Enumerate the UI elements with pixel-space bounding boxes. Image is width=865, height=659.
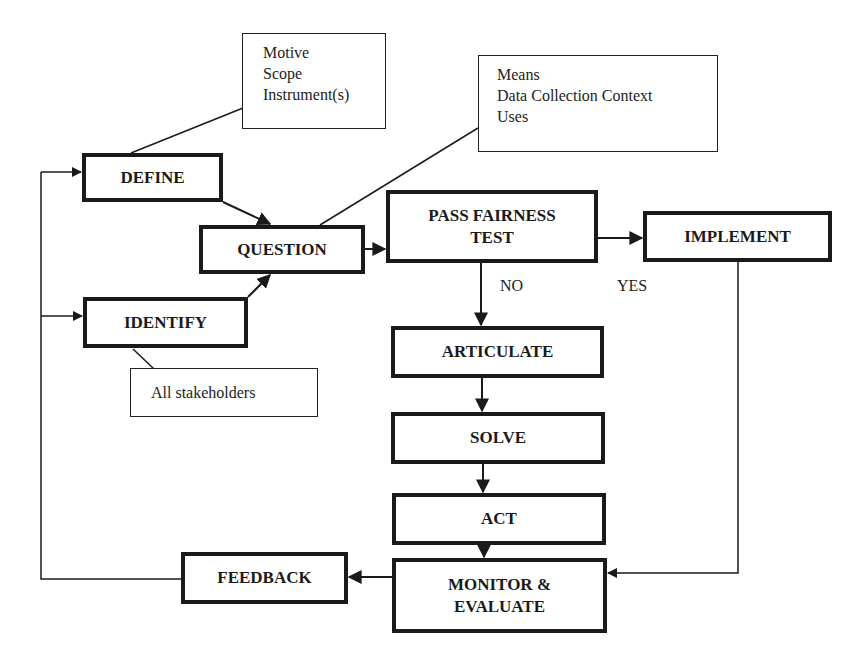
note-motive: Motive xyxy=(263,42,385,63)
node-identify-label: IDENTIFY xyxy=(124,312,207,334)
note-uses: Uses xyxy=(497,106,717,127)
node-implement-label: IMPLEMENT xyxy=(684,226,791,248)
flowchart-canvas: Motive Scope Instrument(s) Means Data Co… xyxy=(0,0,865,659)
node-monitor-label-line1: MONITOR & xyxy=(448,574,551,596)
node-fairness-label-line2: TEST xyxy=(470,227,513,249)
node-define: DEFINE xyxy=(82,153,223,202)
note-scope: Scope xyxy=(263,63,385,84)
node-solve: SOLVE xyxy=(391,412,605,464)
define-note-connector xyxy=(131,108,243,153)
edge-label-no: NO xyxy=(500,277,523,295)
node-question-label: QUESTION xyxy=(237,239,327,261)
node-identify: IDENTIFY xyxy=(83,297,248,348)
arrow-identify-to-question xyxy=(248,275,270,297)
arrow-define-to-question xyxy=(223,202,270,224)
define-note: Motive Scope Instrument(s) xyxy=(242,33,386,129)
note-all-stakeholders: All stakeholders xyxy=(151,382,317,403)
node-articulate-label: ARTICULATE xyxy=(442,341,554,363)
node-fairness-label-line1: PASS FAIRNESS xyxy=(428,205,555,227)
node-implement: IMPLEMENT xyxy=(643,211,832,262)
node-question: QUESTION xyxy=(199,225,365,274)
node-define-label: DEFINE xyxy=(120,167,184,189)
note-means: Means xyxy=(497,64,717,85)
identify-note-connector xyxy=(133,349,154,369)
node-feedback: FEEDBACK xyxy=(181,552,348,604)
arrow-implement-to-monitor xyxy=(608,262,738,573)
question-note: Means Data Collection Context Uses xyxy=(478,55,718,152)
edge-label-yes: YES xyxy=(617,277,647,295)
node-act: ACT xyxy=(392,493,606,545)
node-monitor-label-line2: EVALUATE xyxy=(454,596,545,618)
node-monitor-evaluate: MONITOR & EVALUATE xyxy=(392,558,607,633)
identify-note: All stakeholders xyxy=(130,368,318,417)
note-data-collection-context: Data Collection Context xyxy=(497,85,717,106)
node-pass-fairness-test: PASS FAIRNESS TEST xyxy=(386,190,598,263)
node-feedback-label: FEEDBACK xyxy=(217,567,311,589)
node-solve-label: SOLVE xyxy=(470,427,526,449)
note-instruments: Instrument(s) xyxy=(263,84,385,105)
node-articulate: ARTICULATE xyxy=(391,326,604,378)
node-act-label: ACT xyxy=(481,508,517,530)
